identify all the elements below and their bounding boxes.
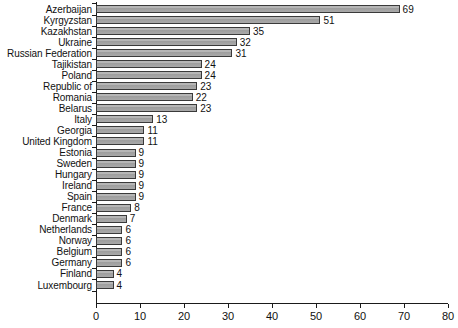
category-label: Poland — [0, 71, 92, 81]
plot-area: AzerbaijanKyrgyzstanKazakhstanUkraineRus… — [0, 0, 458, 328]
bar — [96, 93, 193, 101]
category-label: Spain — [0, 192, 92, 202]
bar — [96, 226, 122, 234]
category-label: Germany — [0, 258, 92, 268]
value-label: 9 — [139, 181, 145, 191]
bar — [96, 248, 122, 256]
value-label: 35 — [253, 27, 264, 37]
category-tick — [92, 3, 96, 4]
value-label: 4 — [117, 281, 123, 291]
category-tick — [92, 279, 96, 280]
category-label: Kyrgyzstan — [0, 16, 92, 26]
category-tick — [92, 246, 96, 247]
value-tick — [228, 304, 229, 308]
bar — [96, 16, 320, 24]
category-label: Romania — [0, 93, 92, 103]
category-label: France — [0, 203, 92, 213]
bar — [96, 149, 136, 157]
value-label: 32 — [240, 38, 251, 48]
bar — [96, 270, 114, 278]
category-tick — [92, 114, 96, 115]
value-tick — [96, 304, 97, 308]
category-label: Ireland — [0, 181, 92, 191]
category-tick — [92, 37, 96, 38]
bar — [96, 115, 153, 123]
category-tick — [92, 202, 96, 203]
category-tick — [92, 158, 96, 159]
value-tick-label: 50 — [296, 310, 336, 322]
bar — [96, 137, 144, 145]
value-tick — [140, 304, 141, 308]
value-label: 7 — [130, 214, 136, 224]
category-tick — [92, 15, 96, 16]
category-label: Belgium — [0, 247, 92, 257]
category-tick — [92, 125, 96, 126]
bar — [96, 5, 400, 13]
value-label: 9 — [139, 148, 145, 158]
value-tick-label: 70 — [384, 310, 424, 322]
value-label: 31 — [235, 49, 246, 59]
category-label: Kazakhstan — [0, 27, 92, 37]
bar — [96, 259, 122, 267]
bar — [96, 82, 197, 90]
value-label: 9 — [139, 192, 145, 202]
category-tick — [92, 169, 96, 170]
category-tick — [92, 26, 96, 27]
value-label: 24 — [205, 60, 216, 70]
value-label: 24 — [205, 71, 216, 81]
value-label: 11 — [147, 126, 157, 136]
category-label: Denmark — [0, 214, 92, 224]
value-label: 23 — [200, 104, 211, 114]
value-tick — [184, 304, 185, 308]
value-label: 22 — [196, 93, 207, 103]
value-tick-label: 30 — [208, 310, 248, 322]
value-tick-label: 10 — [120, 310, 160, 322]
category-tick — [92, 136, 96, 137]
value-label: 13 — [156, 115, 167, 125]
bar — [96, 160, 136, 168]
category-label: Italy — [0, 115, 92, 125]
value-tick — [272, 304, 273, 308]
category-label: Tajikistan — [0, 60, 92, 70]
value-tick — [360, 304, 361, 308]
value-tick-label: 80 — [428, 310, 458, 322]
value-label: 6 — [125, 258, 131, 268]
category-tick — [92, 59, 96, 60]
bar — [96, 49, 232, 57]
bar — [96, 126, 144, 134]
category-tick — [92, 224, 96, 225]
category-label: United Kingdom — [0, 137, 92, 147]
bar — [96, 71, 202, 79]
bar — [96, 171, 136, 179]
value-tick-label: 60 — [340, 310, 380, 322]
category-label: Ukraine — [0, 38, 92, 48]
bar — [96, 27, 250, 35]
bar — [96, 193, 136, 201]
category-label: Finland — [0, 269, 92, 279]
category-tick — [92, 257, 96, 258]
value-label: 6 — [125, 236, 131, 246]
value-label: 11 — [147, 137, 157, 147]
bar — [96, 182, 136, 190]
value-label: 51 — [323, 16, 334, 26]
value-tick-label: 40 — [252, 310, 292, 322]
category-label: Estonia — [0, 148, 92, 158]
category-tick — [92, 81, 96, 82]
bar — [96, 38, 237, 46]
horizontal-bar-chart: AzerbaijanKyrgyzstanKazakhstanUkraineRus… — [0, 0, 458, 328]
category-tick — [92, 92, 96, 93]
category-label: Azerbaijan — [0, 5, 92, 15]
value-label: 6 — [125, 225, 131, 235]
category-tick — [92, 70, 96, 71]
bar — [96, 104, 197, 112]
category-tick — [92, 213, 96, 214]
value-label: 9 — [139, 159, 145, 169]
value-label: 6 — [125, 247, 131, 257]
category-tick — [92, 268, 96, 269]
bar — [96, 237, 122, 245]
value-tick — [316, 304, 317, 308]
value-label: 69 — [403, 5, 414, 15]
category-label: Republic of — [0, 82, 92, 92]
category-tick — [92, 48, 96, 49]
category-tick — [92, 147, 96, 148]
